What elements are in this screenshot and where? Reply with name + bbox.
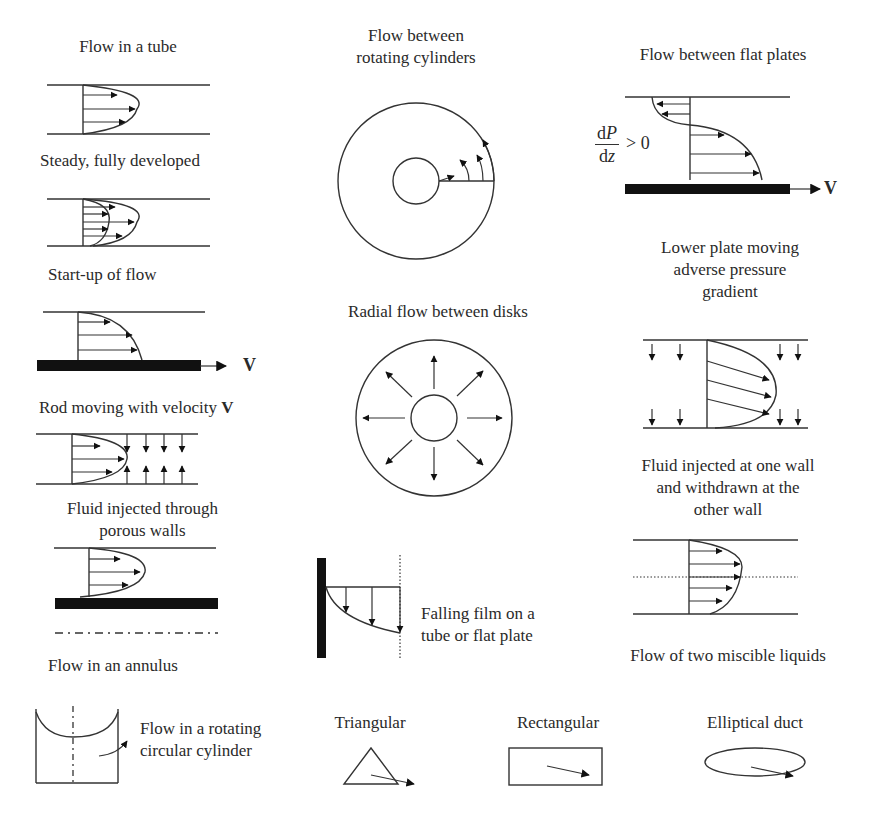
label-flow-in-tube: Flow in a tube bbox=[28, 36, 228, 58]
label-adverse-pressure: Lower plate moving adverse pressure grad… bbox=[640, 237, 820, 303]
porous-walls-figure bbox=[36, 434, 198, 484]
label-rod-moving-text: Rod moving with velocity bbox=[39, 398, 217, 417]
label-porous-walls-line2: porous walls bbox=[40, 520, 245, 542]
pressure-gradient-numerator: dP bbox=[595, 122, 619, 145]
pressure-gradient-denominator: dz bbox=[595, 145, 619, 167]
label-rotating-cylinders: Flow between rotating cylinders bbox=[336, 25, 496, 69]
flow-types-diagram: Flow in a tube Steady, fully developed S… bbox=[0, 0, 869, 822]
startup-flow-figure bbox=[47, 199, 210, 246]
annulus-figure bbox=[54, 548, 218, 633]
label-triangular: Triangular bbox=[320, 712, 420, 734]
label-falling-film-line1: Falling film on a bbox=[421, 603, 535, 625]
label-rotating-cylinders-line2: rotating cylinders bbox=[336, 47, 496, 69]
label-injected-withdrawn-line1: Fluid injected at one wall bbox=[608, 455, 848, 477]
label-porous-walls: Fluid injected through porous walls bbox=[40, 498, 245, 542]
rotating-circular-cylinder-figure bbox=[36, 706, 127, 783]
label-rotating-circular-line1: Flow in a rotating bbox=[140, 718, 261, 740]
rod-moving-figure bbox=[37, 312, 226, 371]
label-radial-flow: Radial flow between disks bbox=[318, 301, 558, 323]
label-falling-film-line2: tube or flat plate bbox=[421, 625, 535, 647]
label-rod-moving: Rod moving with velocity V bbox=[39, 397, 234, 419]
radial-flow-figure bbox=[356, 340, 512, 496]
label-injected-withdrawn: Fluid injected at one wall and withdrawn… bbox=[608, 455, 848, 521]
label-elliptical-duct: Elliptical duct bbox=[685, 712, 825, 734]
label-adverse-line1: Lower plate moving bbox=[640, 237, 820, 259]
label-injected-withdrawn-line3: other wall bbox=[608, 499, 848, 521]
label-adverse-line2: adverse pressure bbox=[640, 259, 820, 281]
label-rotating-circular-line2: circular cylinder bbox=[140, 740, 261, 762]
pressure-gradient-relation: > 0 bbox=[626, 133, 650, 154]
label-rotating-cylinders-line1: Flow between bbox=[336, 25, 496, 47]
adverse-pressure-figure bbox=[643, 340, 808, 428]
label-porous-walls-line1: Fluid injected through bbox=[40, 498, 245, 520]
label-adverse-line3: gradient bbox=[640, 281, 820, 303]
label-startup-of-flow: Start-up of flow bbox=[48, 264, 157, 286]
elliptical-duct-figure bbox=[705, 748, 805, 776]
rotating-cylinders-figure bbox=[338, 103, 494, 259]
tube-flow-figure bbox=[47, 85, 210, 134]
label-steady-fully-developed: Steady, fully developed bbox=[40, 150, 270, 172]
label-flat-plates: Flow between flat plates bbox=[608, 44, 838, 66]
miscible-liquids-figure bbox=[633, 540, 798, 614]
label-injected-withdrawn-line2: and withdrawn at the bbox=[608, 477, 848, 499]
rectangular-duct-figure bbox=[509, 748, 602, 785]
falling-film-figure bbox=[317, 555, 400, 660]
label-rotating-circular-cylinder: Flow in a rotating circular cylinder bbox=[140, 718, 261, 762]
label-miscible-liquids: Flow of two miscible liquids bbox=[598, 645, 858, 667]
label-rectangular: Rectangular bbox=[503, 712, 613, 734]
rod-velocity-symbol: V bbox=[243, 355, 256, 376]
triangular-duct-figure bbox=[344, 748, 414, 784]
label-falling-film: Falling film on a tube or flat plate bbox=[421, 603, 535, 647]
flat-plates-figure bbox=[625, 97, 820, 194]
label-flow-in-annulus: Flow in an annulus bbox=[48, 655, 178, 677]
flat-plates-velocity-symbol: V bbox=[824, 178, 837, 199]
pressure-gradient-expression: dP dz bbox=[595, 122, 619, 167]
label-rod-moving-velocity-symbol: V bbox=[221, 398, 233, 417]
